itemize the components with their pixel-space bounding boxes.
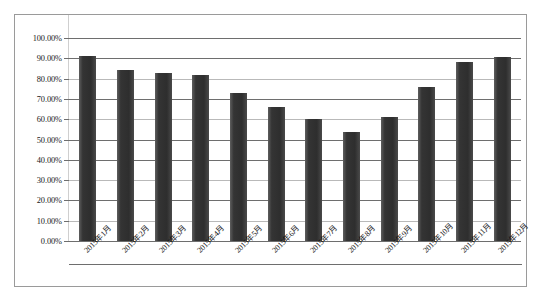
y-tick-label: 60.00% <box>37 115 62 124</box>
y-tick-mark <box>64 241 69 242</box>
bar-2015年10月 <box>418 87 435 241</box>
bar-2015年2月 <box>117 70 134 241</box>
bar-2015年11月 <box>456 62 473 241</box>
bar-2015年5月 <box>230 93 247 241</box>
bar-series <box>69 38 521 241</box>
y-tick-label: 20.00% <box>37 196 62 205</box>
y-tick-label: 70.00% <box>37 94 62 103</box>
y-tick-label: 40.00% <box>37 155 62 164</box>
bar-2015年7月 <box>305 119 322 241</box>
bar-2015年12月 <box>494 57 511 241</box>
bar-2015年9月 <box>381 117 398 241</box>
bar-2015年4月 <box>192 75 209 241</box>
bar-2015年1月 <box>79 56 96 241</box>
y-tick-label: 100.00% <box>33 34 62 43</box>
bar-2015年6月 <box>268 107 285 241</box>
y-tick-label: 50.00% <box>37 135 62 144</box>
y-tick-label: 90.00% <box>37 54 62 63</box>
plot-area: 100.00%90.00%80.00%70.00%60.00%50.00%40.… <box>69 38 521 241</box>
y-tick-label: 80.00% <box>37 74 62 83</box>
bar-2015年3月 <box>155 73 172 241</box>
y-tick-label: 30.00% <box>37 176 62 185</box>
y-tick-label: 10.00% <box>37 216 62 225</box>
chart-frame: 100.00%90.00%80.00%70.00%60.00%50.00%40.… <box>14 14 527 287</box>
y-tick-label: 0.00% <box>41 237 62 246</box>
bar-2015年8月 <box>343 132 360 241</box>
x-axis-line <box>69 264 522 265</box>
